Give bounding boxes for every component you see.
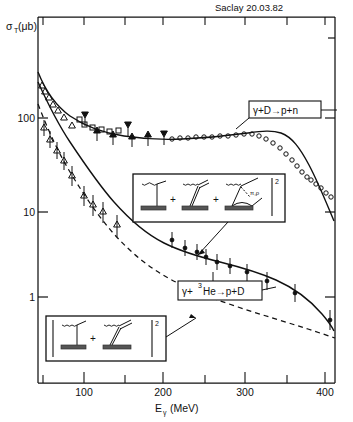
x-tick-label-200: 200 [154, 386, 172, 398]
y-tick-label-10: 10 [23, 206, 35, 218]
reaction-label-gammaHe3-pre: γ+ [182, 286, 193, 297]
y-tick-label-100: 100 [17, 112, 35, 124]
inset-top-plus-2: + [213, 194, 219, 205]
saclay-date-stamp: Saclay 20.03.82 [215, 2, 283, 13]
x-tick-label-300: 300 [236, 386, 254, 398]
x-axis-energy-symbol: E [155, 402, 162, 414]
inset-top-meson-label: π,ρ [250, 190, 260, 196]
x-axis-energy-subscript: γ [163, 409, 167, 417]
x-axis-unit: (MeV) [170, 402, 199, 414]
y-axis-title: σ T (μb) [6, 20, 37, 34]
sigma-vs-energy-plot: Saclay 20.03.82 σ T (μb) [0, 0, 353, 422]
y-axis-unit: (μb) [18, 20, 37, 32]
inset-bottom-plus: + [90, 333, 96, 344]
reaction-label-gammaD: γ+D→p+n [253, 105, 298, 116]
x-tick-label-400: 400 [316, 386, 334, 398]
y-axis-sigma-symbol: σ [6, 20, 13, 32]
inset-bottom-exponent: 2 [155, 320, 159, 327]
y-tick-label-1: 1 [29, 291, 35, 303]
inset-top-exponent: 2 [275, 178, 279, 185]
inset-top-plus-1: + [170, 194, 176, 205]
figure-root: Saclay 20.03.82 σ T (μb) [0, 0, 353, 422]
x-tick-label-100: 100 [75, 386, 93, 398]
reaction-label-gammaHe3-superscript: 3 [198, 282, 202, 289]
reaction-label-gammaHe3-post: He→p+D [203, 286, 244, 297]
